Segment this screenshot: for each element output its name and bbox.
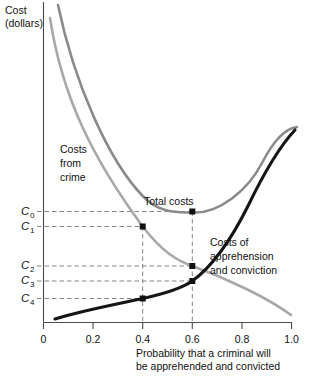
marker-c0 (189, 209, 195, 215)
y-axis-title-line2: (dollars) (5, 17, 43, 29)
x-tick-label-0: 0 (41, 333, 47, 345)
annotation-costs-apprehension-line2: apprehension (210, 250, 274, 262)
annotation-costs-from-crime-line1: Costs (60, 143, 87, 155)
y-tick-label-c0: C 0 (21, 205, 35, 220)
marker-c3 (189, 278, 195, 284)
annotation-costs-apprehension-line1: Costs of (210, 236, 249, 248)
y-tick-c4-base: C (21, 292, 30, 304)
y-tick-label-c2: C 2 (21, 259, 35, 274)
marker-c2 (189, 263, 195, 269)
y-tick-c3-base: C (21, 274, 30, 286)
chart-svg: Cost (dollars) 0 0.2 0.4 0.6 0.8 1.0 C 0… (0, 0, 319, 376)
y-tick-c2-base: C (21, 259, 30, 271)
x-axis-title-line1: Probability that a criminal will (136, 347, 271, 359)
x-tick-label-0-8: 0.8 (235, 333, 250, 345)
curve-costs-apprehension (55, 130, 295, 319)
y-tick-c4-sub: 4 (30, 298, 35, 307)
y-axis-title-line1: Cost (5, 4, 27, 16)
x-tick-label-1-0: 1.0 (284, 333, 299, 345)
y-tick-c3-sub: 3 (30, 280, 35, 289)
x-tick-label-0-4: 0.4 (135, 333, 150, 345)
annotation-costs-apprehension-line3: and conviction (210, 264, 277, 276)
marker-c1 (140, 224, 146, 230)
y-tick-c0-base: C (21, 205, 30, 217)
annotation-costs-from-crime-line3: crime (60, 171, 86, 183)
annotation-costs-from-crime-line2: from (60, 157, 81, 169)
y-tick-c1-sub: 1 (30, 226, 35, 235)
marker-c4 (140, 296, 146, 302)
y-tick-label-c4: C 4 (21, 292, 35, 307)
chart-figure: Cost (dollars) 0 0.2 0.4 0.6 0.8 1.0 C 0… (0, 0, 319, 376)
y-tick-label-c3: C 3 (21, 274, 35, 289)
x-axis-title-line2: be apprehended and convicted (136, 360, 280, 372)
y-tick-c2-sub: 2 (30, 265, 35, 274)
x-tick-label-0-6: 0.6 (185, 333, 200, 345)
annotation-total-costs: Total costs (144, 195, 194, 207)
x-tick-label-0-2: 0.2 (86, 333, 101, 345)
y-tick-c1-base: C (21, 220, 30, 232)
y-tick-c0-sub: 0 (30, 211, 35, 220)
y-tick-label-c1: C 1 (21, 220, 35, 235)
